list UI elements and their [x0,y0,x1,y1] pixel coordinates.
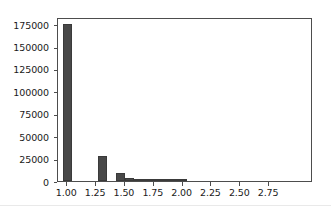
plot-axes-frame [57,18,312,182]
y-tick-label: 75000 [0,110,49,120]
histogram-bar [63,24,72,181]
x-tick-mark [95,182,96,186]
x-tick-label: 1.00 [46,188,86,198]
y-tick-label: 150000 [0,43,49,53]
y-tick-label: 175000 [0,21,49,31]
y-tick-label: 100000 [0,88,49,98]
y-tick-label: 50000 [0,133,49,143]
x-tick-label: 1.75 [133,188,173,198]
x-tick-mark [182,182,183,186]
x-tick-label: 2.25 [190,188,230,198]
histogram-bar [169,179,178,181]
x-tick-label: 1.50 [104,188,144,198]
histogram-bar [116,173,125,181]
x-tick-label: 2.00 [162,188,202,198]
y-tick-label: 25000 [0,155,49,165]
x-tick-mark [66,182,67,186]
histogram-bar [178,179,187,181]
x-tick-label: 2.75 [248,188,288,198]
x-tick-mark [124,182,125,186]
histogram-bar [143,179,152,181]
y-tick-mark [54,182,58,183]
histogram-bar [98,156,107,181]
x-tick-mark [153,182,154,186]
histogram-bar [152,179,161,181]
x-tick-label: 1.25 [75,188,115,198]
x-tick-mark [210,182,211,186]
histogram-bar [134,179,143,181]
x-tick-mark [268,182,269,186]
x-tick-label: 2.50 [219,188,259,198]
bars-container [58,19,311,181]
histogram-bar [125,178,134,181]
footer-divider [0,205,331,206]
x-tick-mark [239,182,240,186]
y-tick-label: 125000 [0,65,49,75]
y-tick-label: 0 [0,178,49,188]
histogram-bar [160,179,169,181]
figure-canvas: 0250005000075000100000125000150000175000… [0,0,331,209]
